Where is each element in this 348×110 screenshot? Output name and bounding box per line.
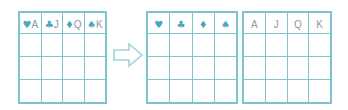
table-cell [214,34,236,57]
table-cell [148,34,170,57]
diamond-suit-icon: ♦ [65,20,74,30]
table-row [244,80,331,103]
table-row [244,57,331,80]
table-cell [287,80,309,103]
table-cell [170,80,192,103]
table-cell [265,34,287,57]
table-header-row: ♥ ♣ ♦ ♠ [148,13,237,34]
combined-card-table: ♥A ♣J ♦Q ♠K [19,12,106,103]
table-cell [192,34,214,57]
table-cell [287,57,309,80]
table-cell [84,80,106,103]
header-cell-clubs-jack: ♣J [41,13,63,34]
table-cell [170,34,192,57]
table-row [148,34,237,57]
table-cell [192,57,214,80]
table-header-row: ♥A ♣J ♦Q ♠K [20,13,106,34]
table-row [244,34,331,57]
table-cell [214,80,236,103]
club-suit-icon: ♣ [45,20,54,30]
header-cell-clubs: ♣ [170,13,192,34]
table-row [20,57,106,80]
table-cell [63,80,85,103]
table-cell [41,57,63,80]
table-cell [20,34,42,57]
table-cell [244,80,266,103]
header-cell-diamonds: ♦ [192,13,214,34]
table-cell [309,80,331,103]
header-cell-spades-king: ♠K [84,13,106,34]
table-row [148,57,237,80]
table-row [20,34,106,57]
suit-table: ♥ ♣ ♦ ♠ [147,12,237,103]
header-cell-ace: A [244,13,266,34]
table-cell [265,57,287,80]
rank-label-j: J [274,19,279,30]
club-suit-icon: ♣ [176,19,185,30]
rank-label-a: A [31,20,38,30]
table-cell [20,57,42,80]
header-cell-spades: ♠ [214,13,236,34]
table-cell [309,34,331,57]
table-cell [170,57,192,80]
rank-label-j: J [54,20,59,30]
table-cell [20,80,42,103]
header-cell-king: K [309,13,331,34]
combined-label: ♠K [87,20,103,30]
rank-table: A J Q K [243,12,331,103]
rank-label-q: Q [294,19,302,30]
spade-suit-icon: ♠ [87,20,96,30]
rank-label-q: Q [74,20,82,30]
card-split-diagram: ♥A ♣J ♦Q ♠K [0,0,348,110]
table-row [20,80,106,103]
table-cell [84,57,106,80]
header-cell-jack: J [265,13,287,34]
rank-label-a: A [251,19,258,30]
table-cell [63,34,85,57]
right-arrow-icon [112,41,144,69]
rank-label-k: K [316,19,323,30]
table-cell [214,57,236,80]
table-cell [192,80,214,103]
table-header-row: A J Q K [244,13,331,34]
table-cell [41,80,63,103]
table-cell [309,57,331,80]
header-cell-queen: Q [287,13,309,34]
table-cell [41,34,63,57]
table-cell [265,80,287,103]
table-cell [287,34,309,57]
spade-suit-icon: ♠ [221,19,230,30]
table-cell [63,57,85,80]
header-cell-hearts-ace: ♥A [20,13,42,34]
rank-label-k: K [96,20,103,30]
header-cell-diamonds-queen: ♦Q [63,13,85,34]
header-cell-hearts: ♥ [148,13,170,34]
heart-suit-icon: ♥ [154,19,163,30]
table-cell [84,34,106,57]
diamond-suit-icon: ♦ [199,19,208,30]
table-cell [148,57,170,80]
combined-label: ♥A [22,20,38,30]
combined-label: ♣J [45,20,59,30]
table-cell [244,57,266,80]
table-cell [244,34,266,57]
combined-label: ♦Q [65,20,82,30]
table-row [148,80,237,103]
arrow-shape [114,44,142,66]
heart-suit-icon: ♥ [22,20,31,30]
table-cell [148,80,170,103]
